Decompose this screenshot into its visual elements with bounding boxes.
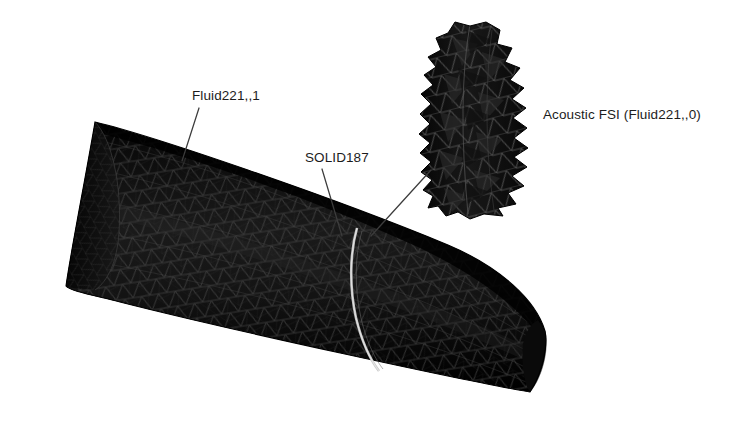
acoustic-fsi-inset-mesh [410, 15, 540, 230]
label-acoustic-fsi: Acoustic FSI (Fluid221,,0) [543, 108, 701, 122]
label-solid187: SOLID187 [305, 151, 369, 165]
label-fluid221-1: Fluid221,,1 [192, 89, 260, 103]
figure-canvas: Fluid221,,1 SOLID187 Acoustic FSI (Fluid… [0, 0, 739, 444]
mesh-illustration [0, 0, 739, 444]
